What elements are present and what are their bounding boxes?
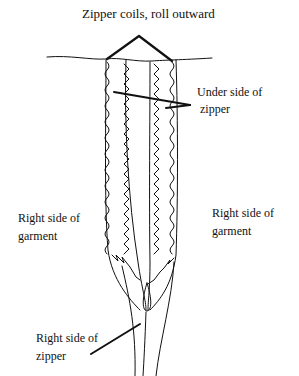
garment-top-edge — [47, 57, 212, 62]
zipper-teeth-left — [124, 64, 129, 254]
label-top: Zipper coils, roll outward — [82, 6, 215, 22]
label-garment-left-1: Right side of — [18, 210, 80, 226]
label-underside-2: zipper — [200, 101, 230, 117]
zipper-coil-right — [170, 62, 174, 254]
zipper-diagram: Zipper coils, roll outward Under side of… — [0, 0, 299, 376]
label-garment-right-1: Right side of — [212, 205, 274, 221]
zipper-drawing — [0, 0, 299, 376]
label-zipper-1: Right side of — [36, 330, 98, 346]
zipper-teeth-right — [154, 64, 159, 254]
leader-zipper — [91, 324, 140, 354]
label-garment-right-2: garment — [212, 223, 251, 239]
label-underside-1: Under side of — [197, 84, 262, 100]
label-zipper-2: zipper — [36, 348, 66, 364]
label-garment-left-2: garment — [18, 228, 57, 244]
garment-outline-left — [106, 60, 141, 310]
outward-arrow — [107, 36, 172, 61]
